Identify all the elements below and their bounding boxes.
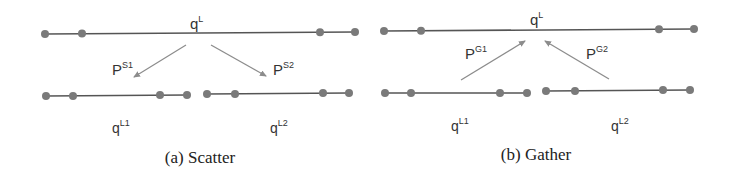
sequence-node xyxy=(380,27,388,35)
sequence-node xyxy=(156,91,164,99)
gather-top-label: qL xyxy=(530,10,543,28)
scatter-gather-diagram: qL PS1 PS2 qL1 qL2 (a) Scatter xyxy=(0,0,731,181)
gather-arrow-right-label: PG2 xyxy=(586,44,608,62)
sequence-node xyxy=(542,87,550,95)
scatter-bottom-right-label: qL2 xyxy=(270,118,288,136)
sequence-node xyxy=(686,86,694,94)
scatter-arrow-left-label: PS1 xyxy=(112,60,133,78)
sequence-node xyxy=(42,92,50,100)
sequence-node xyxy=(655,25,663,33)
scatter-arrow-right-label: PS2 xyxy=(273,60,294,78)
sequence-node xyxy=(183,91,191,99)
sequence-node xyxy=(496,89,504,97)
sequence-node xyxy=(78,30,86,38)
sequence-node xyxy=(203,90,211,98)
scatter-top-sequence xyxy=(41,28,359,38)
scatter-bottom-left-label: qL1 xyxy=(112,118,130,136)
scatter-top-label: qL xyxy=(190,14,203,32)
sequence-node xyxy=(231,90,239,98)
sequence-node xyxy=(319,89,327,97)
sequence-node xyxy=(571,87,579,95)
sequence-node xyxy=(659,86,667,94)
sequence-node xyxy=(417,27,425,35)
sequence-node xyxy=(690,25,698,33)
gather-panel: qL PG1 PG2 qL1 qL2 (b) Gather xyxy=(380,10,698,164)
scatter-arrow-left xyxy=(134,45,186,77)
sequence-node xyxy=(345,89,353,97)
sequence-node xyxy=(523,89,531,97)
scatter-caption: (a) Scatter xyxy=(165,148,236,167)
sequence-node xyxy=(351,28,359,36)
sequence-node xyxy=(407,89,415,97)
scatter-bottom-right-sequence xyxy=(203,89,353,98)
gather-caption: (b) Gather xyxy=(501,145,572,164)
sequence-node xyxy=(316,28,324,36)
scatter-panel: qL PS1 PS2 qL1 qL2 (a) Scatter xyxy=(41,14,359,167)
sequence-node xyxy=(41,30,49,38)
gather-bottom-left-label: qL1 xyxy=(451,116,469,134)
scatter-arrow-right xyxy=(211,45,266,76)
sequence-node xyxy=(69,92,77,100)
gather-arrow-left-label: PG1 xyxy=(465,44,487,62)
gather-top-sequence xyxy=(380,25,698,35)
scatter-bottom-left-sequence xyxy=(42,91,191,100)
gather-bottom-right-sequence xyxy=(542,86,694,95)
gather-bottom-right-label: qL2 xyxy=(611,116,629,134)
gather-bottom-left-sequence xyxy=(381,89,531,97)
sequence-node xyxy=(381,89,389,97)
